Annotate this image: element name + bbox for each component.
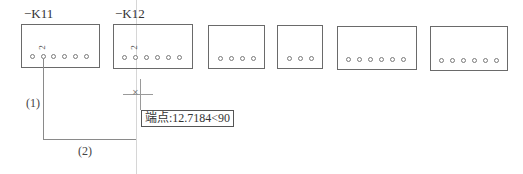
- pin[interactable]: [309, 56, 314, 61]
- component-4[interactable]: [277, 25, 323, 69]
- pin-2-k12[interactable]: [133, 55, 138, 60]
- snap-tooltip: 端点:12.7184<90: [141, 110, 234, 127]
- component-5[interactable]: [337, 26, 417, 70]
- pin[interactable]: [450, 58, 455, 63]
- pin[interactable]: [122, 55, 127, 60]
- pin[interactable]: [155, 55, 160, 60]
- pin[interactable]: [144, 55, 149, 60]
- pin[interactable]: [472, 58, 477, 63]
- pin[interactable]: [73, 54, 78, 59]
- component-6[interactable]: [430, 26, 508, 71]
- wire-segment-1[interactable]: [43, 59, 44, 139]
- snap-marker-icon: ×: [132, 89, 139, 97]
- pin[interactable]: [177, 55, 182, 60]
- pin[interactable]: [251, 56, 256, 61]
- drawing-canvas[interactable]: −K11 2 −K12 2 (1) (2) × 端点:12.7: [0, 0, 523, 174]
- wire-segment-1-label: (1): [26, 97, 40, 109]
- wire-segment-2[interactable]: [43, 139, 136, 140]
- pin[interactable]: [439, 58, 444, 63]
- pin[interactable]: [390, 57, 395, 62]
- crosshair-vertical: [140, 79, 141, 110]
- component-tag-k12: −K12: [115, 7, 145, 20]
- pin[interactable]: [368, 57, 373, 62]
- pin[interactable]: [166, 55, 171, 60]
- pin[interactable]: [346, 57, 351, 62]
- component-k12[interactable]: [113, 24, 193, 69]
- pin[interactable]: [218, 56, 223, 61]
- pin[interactable]: [298, 56, 303, 61]
- pin[interactable]: [357, 57, 362, 62]
- pin[interactable]: [287, 56, 292, 61]
- pin[interactable]: [379, 57, 384, 62]
- pin[interactable]: [494, 58, 499, 63]
- component-k11[interactable]: [21, 24, 100, 68]
- component-3[interactable]: [208, 25, 265, 69]
- pin[interactable]: [240, 56, 245, 61]
- component-tag-k11: −K11: [24, 7, 53, 20]
- pin[interactable]: [483, 58, 488, 63]
- wire-segment-2-label: (2): [78, 145, 92, 157]
- pin[interactable]: [84, 54, 89, 59]
- pin[interactable]: [229, 56, 234, 61]
- pin[interactable]: [30, 54, 35, 59]
- pin[interactable]: [51, 54, 56, 59]
- pin[interactable]: [62, 54, 67, 59]
- pin[interactable]: [401, 57, 406, 62]
- pin-number-label: 2: [38, 45, 47, 50]
- pin[interactable]: [461, 58, 466, 63]
- pin-number-label: 2: [130, 45, 139, 50]
